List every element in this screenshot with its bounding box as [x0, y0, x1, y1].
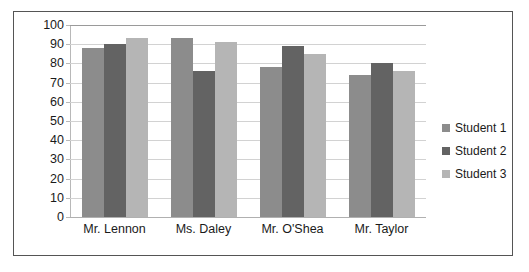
- x-axis-label-1: Ms. Daley: [176, 222, 232, 236]
- y-axis-label-90: 90: [50, 38, 64, 51]
- chart-plot-wrapper: 1009080706050403020100 Mr. LennonMs. Dal…: [14, 12, 512, 255]
- bar[interactable]: [282, 46, 304, 217]
- y-axis-label-70: 70: [50, 76, 64, 89]
- legend-item-1[interactable]: Student 2: [442, 145, 512, 157]
- bar[interactable]: [304, 54, 326, 217]
- legend-label: Student 3: [455, 168, 506, 180]
- y-axis-label-80: 80: [50, 57, 64, 70]
- y-axis-label-0: 0: [57, 211, 64, 224]
- y-axis-label-10: 10: [50, 192, 64, 205]
- bar-group-1: [171, 25, 237, 217]
- gridline-0: [70, 217, 426, 218]
- y-axis-label-100: 100: [43, 19, 64, 32]
- y-axis-label-30: 30: [50, 153, 64, 166]
- y-axis-label-40: 40: [50, 134, 64, 147]
- bar[interactable]: [349, 75, 371, 217]
- x-axis-category-labels: Mr. LennonMs. DaleyMr. O'SheaMr. Taylor: [70, 222, 426, 242]
- bar-group-3: [349, 25, 415, 217]
- y-axis-tick-labels: 1009080706050403020100: [22, 25, 64, 217]
- bar[interactable]: [371, 63, 393, 217]
- bar[interactable]: [215, 42, 237, 217]
- bar[interactable]: [393, 71, 415, 217]
- legend-item-0[interactable]: Student 1: [442, 122, 512, 134]
- bar[interactable]: [126, 38, 148, 217]
- legend-label: Student 2: [455, 145, 506, 157]
- bar-group-2: [260, 25, 326, 217]
- bar[interactable]: [260, 67, 282, 217]
- bar[interactable]: [82, 48, 104, 217]
- legend-item-2[interactable]: Student 3: [442, 168, 512, 180]
- x-axis-label-0: Mr. Lennon: [83, 222, 146, 236]
- x-axis-label-2: Mr. O'Shea: [261, 222, 323, 236]
- legend-label: Student 1: [455, 122, 506, 134]
- x-axis-label-3: Mr. Taylor: [355, 222, 409, 236]
- bars-layer: [70, 25, 426, 217]
- bar[interactable]: [193, 71, 215, 217]
- bar[interactable]: [171, 38, 193, 217]
- y-axis-label-50: 50: [50, 115, 64, 128]
- chart-frame: 1009080706050403020100 Mr. LennonMs. Dal…: [13, 11, 513, 256]
- legend-swatch-icon: [442, 147, 450, 155]
- y-axis-label-20: 20: [50, 172, 64, 185]
- y-axis-label-60: 60: [50, 96, 64, 109]
- legend-swatch-icon: [442, 170, 450, 178]
- legend-swatch-icon: [442, 124, 450, 132]
- bar[interactable]: [104, 44, 126, 217]
- y-axis-tick-0: [66, 217, 70, 218]
- chart-legend: Student 1Student 2Student 3: [442, 122, 512, 191]
- plot-area: [70, 25, 426, 217]
- bar-group-0: [82, 25, 148, 217]
